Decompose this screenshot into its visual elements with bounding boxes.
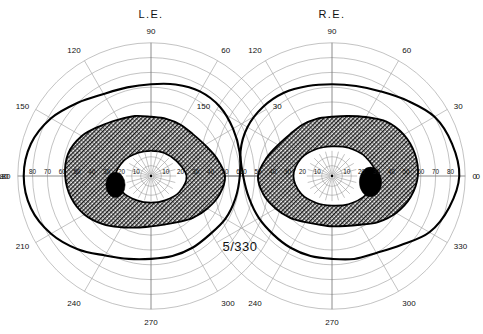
right-eye-radial-label-nasal-10: 10 xyxy=(314,168,322,175)
right-eye-angle-label-330: 330 xyxy=(454,242,468,251)
left-eye-radial-label-nasal-40: 40 xyxy=(207,168,215,175)
right-eye-radial-label-nasal-30: 30 xyxy=(284,168,292,175)
right-eye-radial-label-temporal-70: 70 xyxy=(432,168,440,175)
right-eye-radial-label-temporal-80: 80 xyxy=(447,168,455,175)
right-eye-radial-label-nasal-60: 60 xyxy=(240,168,248,175)
right-eye-angle-label-60: 60 xyxy=(402,46,411,55)
right-eye-angle-label-30: 30 xyxy=(454,102,463,111)
right-eye-radial-label-temporal-60: 60 xyxy=(417,168,425,175)
left-eye-radial-label-temporal-20: 20 xyxy=(118,168,126,175)
left-eye-angle-label-180-primary: 180 xyxy=(0,172,9,181)
right-eye-fixation-point xyxy=(331,175,334,178)
left-eye-radial-label-temporal-40: 40 xyxy=(88,168,96,175)
stimulus-annotation: 5/330 xyxy=(222,239,257,254)
right-eye-angle-label-300: 300 xyxy=(402,299,416,308)
right-eye-angle-label-120: 120 xyxy=(248,46,262,55)
right-eye-radial-label-temporal-40: 40 xyxy=(388,168,396,175)
left-eye-angle-label-90: 90 xyxy=(147,27,156,36)
right-eye-angle-label-150: 150 xyxy=(197,102,211,111)
left-eye-angle-label-300: 300 xyxy=(221,299,235,308)
right-eye-radial-label-nasal-20: 20 xyxy=(299,168,307,175)
right-eye-angle-label-240: 240 xyxy=(248,299,262,308)
left-eye-radial-label-temporal-80: 80 xyxy=(29,168,37,175)
left-eye-radial-label-temporal-70: 70 xyxy=(44,168,52,175)
right-eye-radial-label-temporal-10: 10 xyxy=(343,168,351,175)
left-eye-angle-label-150: 150 xyxy=(16,102,30,111)
right-eye-angle-label-270: 270 xyxy=(325,318,339,327)
left-eye-angle-label-30: 30 xyxy=(273,102,282,111)
left-eye-angle-label-270: 270 xyxy=(144,318,158,327)
left-eye-radial-label-temporal-10: 10 xyxy=(133,168,141,175)
left-eye-radial-label-temporal-50: 50 xyxy=(73,168,81,175)
right-eye-radial-label-temporal-50: 50 xyxy=(402,168,410,175)
left-eye-blind-spot xyxy=(106,172,125,197)
left-eye-radial-label-nasal-50: 50 xyxy=(221,168,229,175)
right-eye-angle-label-90: 90 xyxy=(328,27,337,36)
left-eye-angle-label-240: 240 xyxy=(67,299,81,308)
right-eye-title: R.E. xyxy=(319,8,346,20)
perimetry-svg: 0306090120150180210240270300330180807060… xyxy=(0,0,483,334)
left-eye-title: L.E. xyxy=(138,8,163,20)
perimetry-chart-root: 0306090120150180210240270300330180807060… xyxy=(0,0,483,334)
left-eye-radial-label-nasal-10: 10 xyxy=(162,168,170,175)
left-eye-fixation-point xyxy=(150,175,153,178)
right-eye-radial-label-temporal-30: 30 xyxy=(373,168,381,175)
right-eye-radial-label-temporal-20: 20 xyxy=(358,168,366,175)
left-eye-radial-label-nasal-30: 30 xyxy=(192,168,200,175)
left-eye-radial-label-temporal-60: 60 xyxy=(59,168,67,175)
right-eye-radial-label-nasal-40: 40 xyxy=(269,168,277,175)
left-eye-angle-label-120: 120 xyxy=(67,46,81,55)
right-eye-radial-label-nasal-50: 50 xyxy=(254,168,262,175)
left-eye-angle-label-60: 60 xyxy=(221,46,230,55)
left-eye-angle-label-210: 210 xyxy=(16,242,30,251)
right-eye-angle-label-0-primary: 0 xyxy=(476,172,481,181)
left-eye-radial-label-temporal-30: 30 xyxy=(103,168,111,175)
